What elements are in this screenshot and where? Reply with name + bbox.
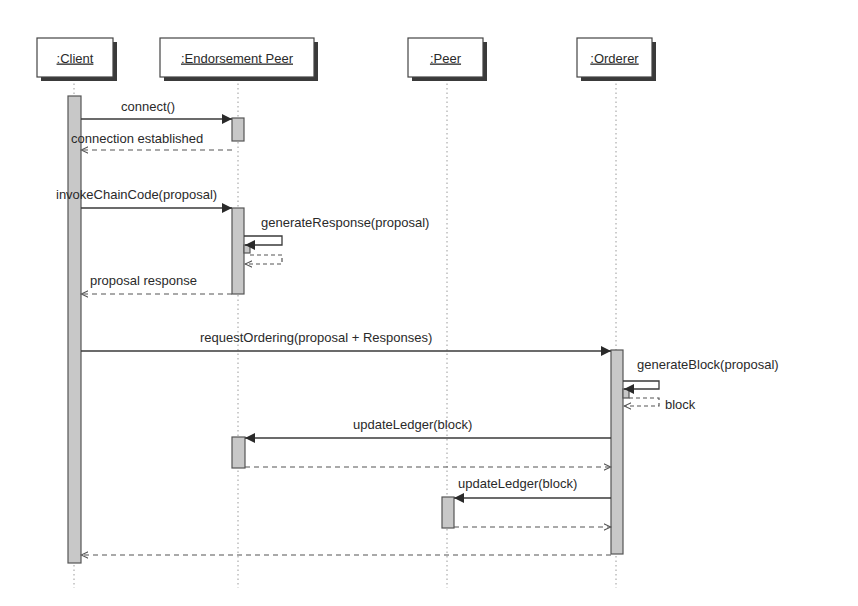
message-label: generateBlock(proposal) [637,357,779,372]
message-label: generateResponse(proposal) [261,215,429,230]
sequence-diagram: :Client:Endorsement Peer:Peer:Orderer co… [0,0,858,606]
self-call-arrow [244,236,282,245]
activation-bar-endorsement_peer [232,118,244,141]
participant-label: :Orderer [590,51,639,66]
self-call-arrow [623,381,659,389]
messages: connect()connection establishedinvokeCha… [56,99,779,555]
self-return-arrow [245,255,282,264]
message-call: connect() [81,99,232,119]
activation-bar-client [68,96,81,563]
activation-bar-endorsement_peer [244,245,250,253]
message-call: updateLedger(block) [454,476,611,498]
self-return-arrow [624,398,659,406]
participant-label: :Endorsement Peer [181,51,294,66]
message-return: connection established [71,131,232,150]
participant-label: :Peer [430,51,462,66]
message-call: generateBlock(proposal) [623,357,779,389]
activation-bar-endorsement_peer [232,437,245,468]
message-label: invokeChainCode(proposal) [56,187,217,202]
participant-endorsement_peer: :Endorsement Peer [160,38,318,81]
activation-bar-peer [442,497,454,528]
message-call: requestOrdering(proposal + Responses) [81,330,611,351]
participant-client: :Client [37,38,117,81]
message-label: connect() [121,99,175,114]
participant-label: :Client [57,51,94,66]
message-label: connection established [71,131,203,146]
participants: :Client:Endorsement Peer:Peer:Orderer [37,38,656,81]
message-return: proposal response [81,273,232,294]
message-call: updateLedger(block) [245,417,611,438]
message-label: block [665,397,696,412]
message-return: block [624,397,696,412]
message-return [245,255,282,264]
activation-bar-orderer [611,350,623,554]
message-label: requestOrdering(proposal + Responses) [200,330,432,345]
message-call: generateResponse(proposal) [244,215,429,245]
activation-bar-endorsement_peer [232,208,244,294]
message-label: proposal response [90,273,197,288]
participant-peer: :Peer [408,38,487,81]
activation-bar-orderer [623,389,629,398]
message-label: updateLedger(block) [353,417,472,432]
message-call: invokeChainCode(proposal) [56,187,232,208]
participant-orderer: :Orderer [577,38,656,81]
message-label: updateLedger(block) [458,476,577,491]
